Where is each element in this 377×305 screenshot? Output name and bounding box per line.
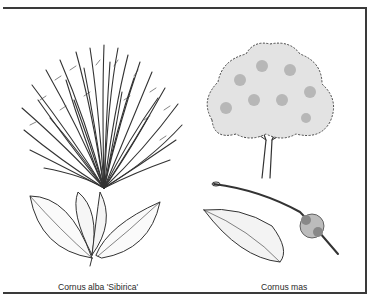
botanical-illustration — [0, 0, 377, 305]
tree-illustration — [207, 43, 333, 178]
mas-leaf-illustration — [204, 209, 284, 262]
caption-cornus-alba: Cornus alba 'Sibirica' — [58, 282, 138, 292]
shrub-illustration — [22, 45, 182, 188]
leaf-spray-illustration — [30, 192, 160, 266]
caption-cornus-mas: Cornus mas — [261, 282, 307, 292]
